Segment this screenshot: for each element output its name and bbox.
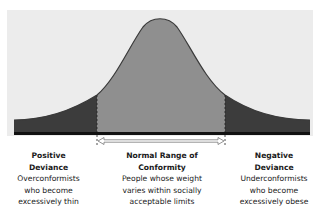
- desc-line: acceptable limits: [97, 196, 227, 208]
- title-line: Conformity: [97, 162, 227, 174]
- desc-line: Overconformists: [0, 173, 97, 185]
- title-line: Normal Range of: [97, 150, 227, 162]
- title-line: Deviance: [224, 162, 324, 174]
- title-line: Positive: [0, 150, 97, 162]
- normal-range-label: Normal Range of Conformity People whose …: [97, 150, 227, 208]
- bell-curve-diagram: [0, 0, 324, 150]
- baseline-axis: [14, 132, 310, 135]
- title-line: Negative: [224, 150, 324, 162]
- negative-deviance-label: Negative Deviance Underconformists who b…: [224, 150, 324, 208]
- desc-line: who become: [0, 185, 97, 197]
- desc-line: who become: [224, 185, 324, 197]
- desc-line: excessively obese: [224, 196, 324, 208]
- range-arrow-icon: [98, 138, 224, 145]
- desc-line: People whose weight: [97, 173, 227, 185]
- desc-line: Underconformists: [224, 173, 324, 185]
- title-line: Deviance: [0, 162, 97, 174]
- desc-line: excessively thin: [0, 196, 97, 208]
- positive-deviance-label: Positive Deviance Overconformists who be…: [0, 150, 97, 208]
- desc-line: varies within socially: [97, 185, 227, 197]
